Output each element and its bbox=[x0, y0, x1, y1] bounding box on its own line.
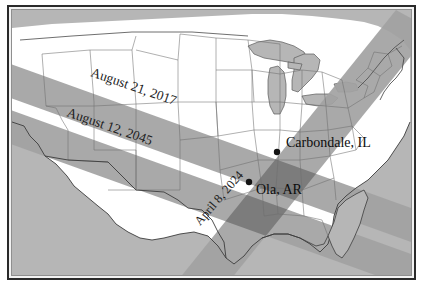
eclipse-path-label-2024-text: April 8, 2024 bbox=[192, 168, 247, 228]
map-labels-layer: August 21, 2017 August 12, 2045 April 8,… bbox=[12, 10, 411, 275]
eclipse-path-label-2045: August 12, 2045 bbox=[65, 105, 155, 148]
map-frame-inner: August 21, 2017 August 12, 2045 April 8,… bbox=[11, 9, 412, 276]
city-marker-carbondale[interactable]: Carbondale, IL bbox=[274, 135, 371, 155]
city-dot-ola[interactable] bbox=[246, 179, 252, 185]
eclipse-path-label-2024: April 8, 2024 bbox=[192, 168, 247, 228]
eclipse-path-label-2017-text: August 21, 2017 bbox=[89, 65, 179, 108]
city-marker-ola[interactable]: Ola, AR bbox=[246, 179, 303, 197]
eclipse-path-map-figure: August 21, 2017 August 12, 2045 April 8,… bbox=[0, 0, 423, 286]
city-label-ola: Ola, AR bbox=[256, 182, 303, 197]
eclipse-path-label-2045-text: August 12, 2045 bbox=[65, 105, 155, 148]
city-label-carbondale: Carbondale, IL bbox=[286, 135, 371, 150]
eclipse-path-label-2017: August 21, 2017 bbox=[89, 65, 179, 108]
city-dot-carbondale[interactable] bbox=[274, 149, 280, 155]
